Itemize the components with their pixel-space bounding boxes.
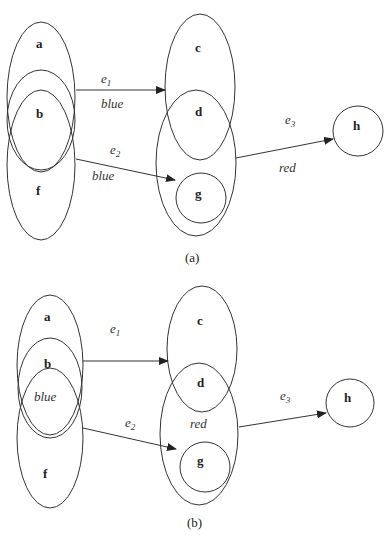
set-label-blue: blue [34,389,57,404]
node-d: d [197,375,205,390]
edge-e3 [236,139,333,158]
node-b: b [36,106,43,121]
hypergraph-figure: a b f c d g h e1 blue e2 blue e3 red (a)… [0,0,391,549]
edge-e2 [76,159,175,180]
edge-e1-label: e1 [101,71,111,88]
edge-e2-label: e2 [125,415,136,432]
node-h: h [344,390,352,405]
node-b: b [44,356,51,371]
set-cd [165,14,235,160]
node-c: c [195,40,201,55]
node-h: h [353,118,361,133]
set-label-red: red [190,416,207,431]
caption-b: (b) [187,515,202,530]
edge-e2-color: blue [92,168,115,183]
node-f: f [43,466,48,481]
node-a: a [36,36,43,51]
edge-e2 [83,428,176,449]
diagram-b: a b blue f c d red g h e1 e2 e3 (b) [17,286,374,530]
set-g [180,442,230,492]
node-a: a [44,309,51,324]
edge-e3-label: e3 [285,112,296,129]
edge-e3 [239,413,326,427]
edge-e1-label: e1 [110,321,120,338]
edge-e2-label: e2 [110,142,121,159]
node-g: g [195,186,202,201]
node-c: c [197,313,203,328]
edge-e3-label: e3 [280,388,291,405]
set-cd [167,286,237,412]
set-b-blue [18,338,82,438]
diagram-a: a b f c d g h e1 blue e2 blue e3 red (a) [7,14,383,265]
caption-a: (a) [185,250,199,265]
node-d: d [195,104,203,119]
edge-e1-color: blue [101,96,124,111]
node-g: g [197,453,204,468]
edge-e3-color: red [279,160,296,175]
node-f: f [36,183,41,198]
